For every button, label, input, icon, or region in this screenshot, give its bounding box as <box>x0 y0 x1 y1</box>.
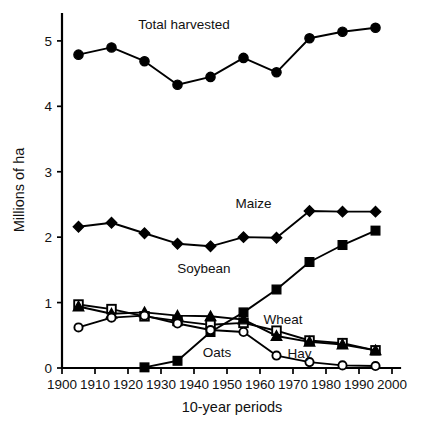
data-point-open-circle <box>272 351 280 359</box>
data-point-open-circle <box>206 326 214 334</box>
y-tick-label: 3 <box>44 165 52 180</box>
x-tick-label: 1990 <box>344 377 374 392</box>
data-point-filled-circle <box>206 72 215 81</box>
y-axis-title: Millions of ha <box>11 147 27 233</box>
data-point-filled-circle <box>371 23 380 32</box>
x-tick-label: 1900 <box>47 377 77 392</box>
x-tick-label: 1910 <box>80 377 110 392</box>
series-label-maize: Maize <box>235 196 271 211</box>
data-point-filled-square <box>272 285 281 294</box>
chart-container: 012345 190019101920193019401950196019701… <box>0 0 425 425</box>
data-point-open-circle <box>239 328 247 336</box>
x-tick-label: 2000 <box>377 377 407 392</box>
data-point-filled-circle <box>272 68 281 77</box>
x-axis-title: 10-year periods <box>182 399 283 415</box>
series-label-wheat: Wheat <box>264 312 303 327</box>
data-point-filled-circle <box>239 53 248 62</box>
series-label-soybean: Soybean <box>177 261 230 276</box>
data-point-filled-square <box>173 357 182 366</box>
y-tick-label: 5 <box>44 34 52 49</box>
x-tick-label: 1980 <box>311 377 341 392</box>
x-tick-label: 1960 <box>245 377 275 392</box>
data-point-filled-square <box>140 363 149 372</box>
x-tick-label: 1930 <box>146 377 176 392</box>
data-point-filled-circle <box>140 57 149 66</box>
x-tick-label: 1950 <box>212 377 242 392</box>
data-point-open-circle <box>74 323 82 331</box>
data-point-filled-square <box>338 241 347 250</box>
data-point-filled-circle <box>107 43 116 52</box>
data-point-filled-circle <box>305 34 314 43</box>
series-label-oats: Oats <box>203 345 232 360</box>
data-point-open-circle <box>371 362 379 370</box>
x-tick-label: 1920 <box>113 377 143 392</box>
data-point-filled-circle <box>74 50 83 59</box>
data-point-open-circle <box>173 319 181 327</box>
x-tick-label: 1970 <box>278 377 308 392</box>
data-point-filled-circle <box>338 27 347 36</box>
data-point-open-circle <box>338 361 346 369</box>
data-point-filled-square <box>371 226 380 235</box>
x-tick-labels: 1900191019201930194019501960197019801990… <box>47 377 407 392</box>
y-tick-label: 4 <box>44 99 52 114</box>
y-tick-label: 2 <box>44 230 52 245</box>
data-point-open-circle <box>107 314 115 322</box>
y-tick-label: 1 <box>44 296 52 311</box>
y-tick-label: 0 <box>44 361 52 376</box>
series-label-hay: Hay <box>288 346 312 361</box>
data-point-filled-square <box>305 258 314 267</box>
series-label-total-harvested: Total harvested <box>138 17 230 32</box>
data-point-open-circle <box>140 312 148 320</box>
data-point-filled-circle <box>173 80 182 89</box>
line-chart: 012345 190019101920193019401950196019701… <box>0 0 425 425</box>
x-tick-label: 1940 <box>179 377 209 392</box>
